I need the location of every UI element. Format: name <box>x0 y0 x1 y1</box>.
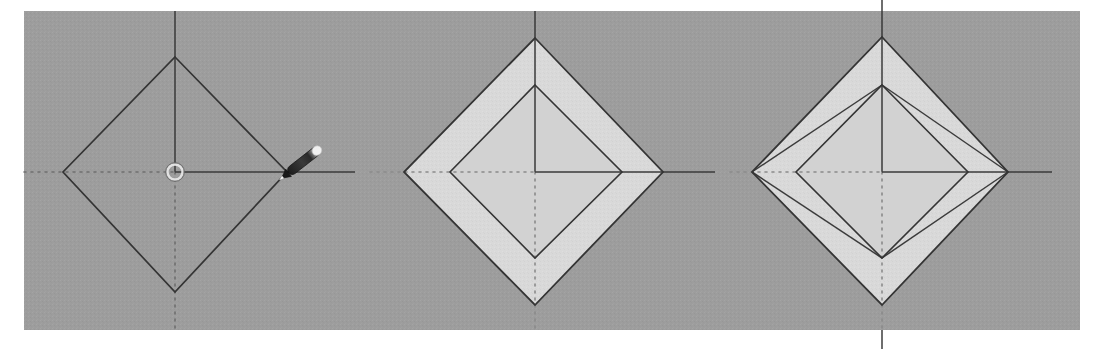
modeling-viewport-canvas[interactable] <box>0 0 1101 349</box>
screenshot-root <box>0 0 1101 349</box>
